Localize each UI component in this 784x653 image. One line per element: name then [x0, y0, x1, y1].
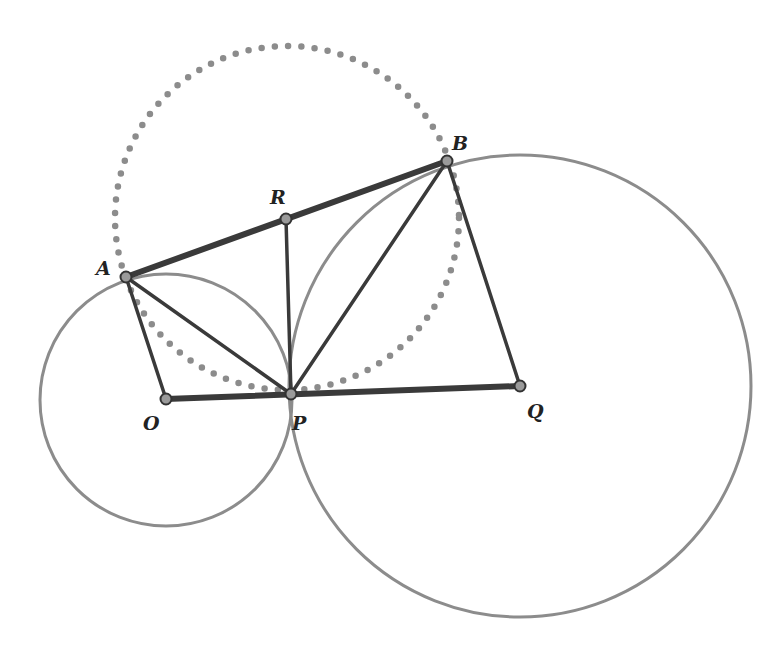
circles-layer — [40, 46, 751, 617]
points-layer — [121, 156, 526, 405]
segment-AO — [126, 277, 166, 399]
point-A — [121, 272, 132, 283]
label-A: A — [94, 257, 111, 279]
segment-AP — [126, 277, 291, 394]
segment-OQ — [166, 386, 520, 399]
point-R — [281, 214, 292, 225]
label-B: B — [451, 132, 468, 154]
point-P — [286, 389, 297, 400]
segment-BQ — [447, 161, 520, 386]
label-Q: Q — [527, 400, 544, 422]
point-B — [442, 156, 453, 167]
label-R: R — [269, 186, 286, 208]
label-P: P — [291, 412, 307, 434]
point-Q — [515, 381, 526, 392]
geometry-diagram: ABROPQ — [0, 0, 784, 653]
label-O: O — [143, 412, 160, 434]
segments-layer — [126, 161, 520, 399]
point-O — [161, 394, 172, 405]
